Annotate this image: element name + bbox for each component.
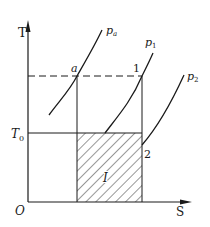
y-axis-label: T [18, 25, 27, 40]
point-2-label: 2 [144, 148, 151, 161]
point-1-label: 1 [133, 62, 140, 75]
isobar-p2 [142, 75, 184, 145]
point-a-label: a [71, 62, 78, 75]
hatched-region [77, 133, 142, 202]
origin-label: O [15, 204, 25, 218]
y-axis [26, 20, 31, 202]
ts-diagram: T S O T0 pa p1 p2 a 1 2 I [0, 0, 210, 227]
region-label: I [102, 171, 108, 185]
isobar-p1-label: p1 [145, 36, 157, 50]
isobar-p2-label: p2 [187, 70, 199, 84]
x-axis-arrow-icon [180, 200, 192, 205]
t0-label: T0 [11, 127, 24, 143]
x-axis-label: S [176, 205, 184, 219]
isobar-pa-label: pa [106, 24, 117, 38]
isobar-p1 [105, 53, 153, 133]
